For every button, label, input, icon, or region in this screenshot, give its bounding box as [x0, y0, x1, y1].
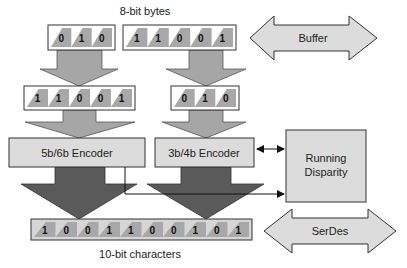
arrow-down-right-2 — [162, 110, 246, 138]
bit-value: 0 — [98, 93, 104, 104]
serdes-label: SerDes — [312, 225, 349, 237]
bit-value: 1 — [35, 93, 41, 104]
diagram-canvas: 8-bit bytes 010 11001 11001 010 5b/6b En… — [0, 0, 407, 268]
bit-value: 1 — [235, 225, 241, 236]
bit-value: 0 — [171, 225, 177, 236]
bit-value: 0 — [63, 225, 69, 236]
buffer-label: Buffer — [298, 32, 327, 44]
encoder-5b6b-label: 5b/6b Encoder — [41, 147, 113, 159]
arrow-down-right-1 — [166, 50, 246, 86]
encoder-3b4b-label: 3b/4b Encoder — [168, 147, 240, 159]
bit-value: 1 — [220, 33, 226, 44]
bit-value: 1 — [192, 225, 198, 236]
bit-value: 0 — [149, 225, 155, 236]
bit-value: 1 — [106, 225, 112, 236]
label-10bit-characters: 10-bit characters — [99, 248, 181, 260]
split-5bit-group: 11001 — [24, 86, 135, 110]
label-8bit-bytes: 8-bit bytes — [120, 5, 171, 17]
bit-value: 0 — [177, 33, 183, 44]
arrow-down-dark-right — [147, 167, 264, 219]
bit-value: 1 — [134, 33, 140, 44]
bit-value: 1 — [202, 93, 208, 104]
output-10bit-group: 1001100101 — [31, 219, 252, 240]
input-byte-left: 010 — [48, 25, 115, 50]
arrow-down-dark-left — [21, 167, 137, 219]
bit-value: 0 — [214, 225, 220, 236]
bit-value: 1 — [56, 93, 62, 104]
bit-value: 0 — [77, 93, 83, 104]
arrow-down-left-1 — [40, 50, 118, 86]
input-byte-right: 11001 — [123, 25, 236, 50]
arrow-down-left-2 — [25, 110, 135, 138]
bit-value: 1 — [79, 33, 85, 44]
running-disparity-label-line2: Disparity — [305, 166, 348, 178]
split-3bit-group: 010 — [171, 86, 239, 110]
bit-value: 0 — [85, 225, 91, 236]
bit-value: 0 — [223, 93, 229, 104]
bit-value: 1 — [128, 225, 134, 236]
bit-value: 1 — [155, 33, 161, 44]
bit-value: 1 — [42, 225, 48, 236]
bit-value: 0 — [58, 33, 64, 44]
bit-value: 0 — [99, 33, 105, 44]
bit-value: 1 — [119, 93, 125, 104]
bit-value: 0 — [182, 93, 188, 104]
running-disparity-label-line1: Running — [306, 152, 347, 164]
bit-value: 0 — [198, 33, 204, 44]
